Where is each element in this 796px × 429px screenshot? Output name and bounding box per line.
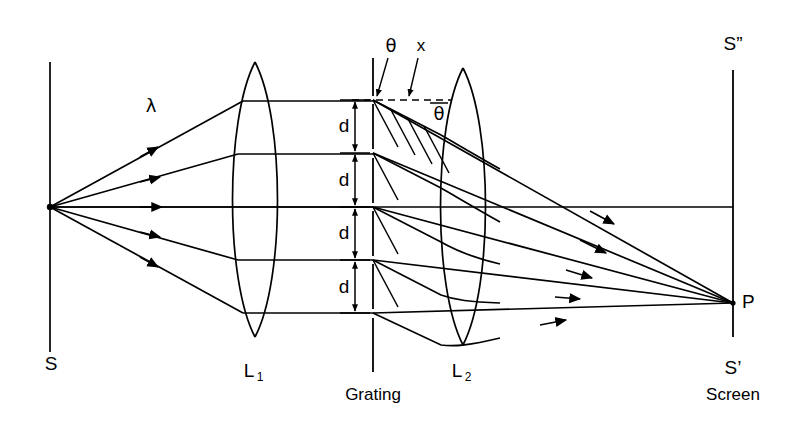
label-path-difference: x	[417, 36, 426, 55]
diffracted-ray-2	[373, 153, 733, 303]
label-screen-bottom: S’	[725, 357, 742, 378]
theta-leader-arrow	[377, 58, 388, 96]
diffracted-ray-4	[373, 260, 733, 303]
converge-arrow-3	[566, 270, 592, 278]
label-theta-incident: θ	[385, 35, 396, 56]
lens1-left-surface	[233, 62, 256, 337]
label-lens2-subscript: 2	[465, 370, 472, 384]
focus-point-p	[730, 300, 735, 305]
lens1-right-surface	[255, 62, 278, 337]
label-screen-top: S”	[724, 33, 743, 54]
label-wavelength: λ	[146, 95, 157, 116]
label-spacing-4: d	[339, 276, 350, 297]
label-lens2: L	[452, 360, 463, 381]
converge-arrow-4	[555, 297, 580, 299]
label-point-p: P	[742, 291, 755, 312]
converge-arrow-5	[540, 320, 566, 325]
incident-ray-arrowheads	[140, 147, 162, 267]
incident-arrow-5	[140, 257, 158, 267]
label-source-slit: S	[45, 353, 58, 374]
optics-ray-diagram: S L 1 L 2 Grating Screen S” S’ P λ θ x θ…	[0, 0, 796, 429]
converge-arrow-2	[580, 240, 606, 253]
label-theta-diffracted: θ	[433, 103, 444, 124]
label-spacing-3: d	[339, 222, 350, 243]
converge-arrow-1	[590, 211, 614, 224]
diagram-canvas: S L 1 L 2 Grating Screen S” S’ P λ θ x θ…	[0, 0, 796, 429]
incident-arrow-4	[140, 232, 160, 237]
label-spacing-2: d	[339, 169, 350, 190]
incident-arrow-2	[140, 177, 160, 182]
label-lens1-subscript: 1	[257, 370, 264, 384]
incident-arrow-1	[140, 147, 158, 157]
label-screen: Screen	[706, 385, 760, 404]
ray5-lens-bend	[373, 313, 500, 346]
label-lens1: L	[244, 360, 255, 381]
path-difference-steps	[373, 100, 449, 307]
label-grating: Grating	[345, 385, 401, 404]
x-leader-arrow	[409, 58, 418, 96]
diagram-labels: S L 1 L 2 Grating Screen S” S’ P λ θ x θ…	[45, 33, 760, 404]
diffracted-ray-5	[373, 303, 733, 313]
label-spacing-1: d	[339, 115, 350, 136]
